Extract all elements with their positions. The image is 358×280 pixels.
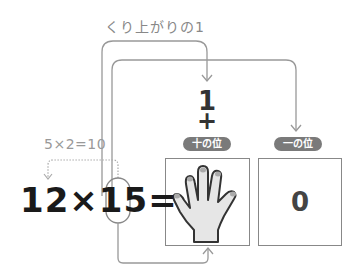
times-sign: × xyxy=(69,180,99,220)
partial-product: 5×2=10 xyxy=(44,136,106,152)
plus-sign: + xyxy=(196,109,218,133)
equation: 12×15= xyxy=(20,183,178,217)
ones-digit: 0 xyxy=(258,158,342,246)
multiplier-ones: 5 xyxy=(124,180,149,220)
ones-place-badge: 一の位 xyxy=(274,137,322,151)
equals-sign: = xyxy=(148,180,178,220)
hand-icon xyxy=(172,164,244,244)
carry-title: くり上がりの1 xyxy=(0,16,310,36)
multiplicand: 12 xyxy=(20,180,69,220)
tens-place-badge: 十の位 xyxy=(183,137,231,151)
multiplier-tens: 1 xyxy=(99,180,124,220)
